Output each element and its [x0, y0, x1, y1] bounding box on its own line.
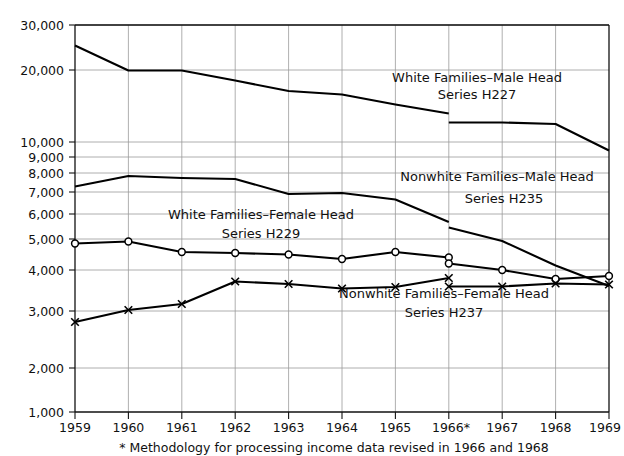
- series-h237-label-line2: Series H237: [405, 305, 484, 320]
- ytick-label-3000: 3,000: [28, 304, 64, 319]
- y-axis-tick-labels: 30,000 20,000 10,000 9,000 8,000 7,000 6…: [20, 18, 64, 420]
- ytick-label-5000: 5,000: [28, 232, 64, 247]
- series-h227-label-line2: Series H227: [438, 87, 517, 102]
- series-h229-label-line2: Series H229: [222, 226, 301, 241]
- series-h235-label-line2: Series H235: [465, 191, 544, 206]
- series-annotation-h237: Nonwhite Families–Female Head Series H23…: [339, 286, 549, 320]
- ytick-label-4000: 4,000: [28, 263, 64, 278]
- marker-h229-1967: [499, 267, 506, 274]
- xtick-label-1964: 1964: [326, 420, 358, 435]
- xtick-label-1962: 1962: [219, 420, 251, 435]
- xtick-label-1961: 1961: [166, 420, 198, 435]
- xtick-label-1960: 1960: [112, 420, 144, 435]
- chart-canvas: 30,000 20,000 10,000 9,000 8,000 7,000 6…: [0, 0, 624, 456]
- ytick-label-9000: 9,000: [28, 150, 64, 165]
- chart-footnote: * Methodology for processing income data…: [119, 440, 549, 455]
- marker-h229-1965: [392, 249, 399, 256]
- marker-h229-1964: [339, 256, 346, 263]
- y-tick-marks: [69, 25, 75, 412]
- ytick-label-1000: 1,000: [28, 405, 64, 420]
- series-annotation-h235: Nonwhite Families–Male Head Series H235: [400, 169, 594, 206]
- marker-h229-1962: [232, 250, 239, 257]
- ytick-label-8000: 8,000: [28, 166, 64, 181]
- xtick-label-1966: 1966*: [432, 420, 470, 435]
- xtick-label-1968: 1968: [540, 420, 572, 435]
- marker-h229-1969: [606, 273, 613, 280]
- ytick-label-6000: 6,000: [28, 207, 64, 222]
- ytick-label-10000: 10,000: [20, 135, 64, 150]
- series-h227-label-line1: White Families–Male Head: [392, 70, 562, 85]
- ytick-label-7000: 7,000: [28, 185, 64, 200]
- xtick-label-1965: 1965: [379, 420, 411, 435]
- marker-h229-1961: [178, 249, 185, 256]
- marker-h229-1960: [125, 238, 132, 245]
- series-annotation-h227: White Families–Male Head Series H227: [392, 70, 562, 102]
- series-h229-label-line1: White Families–Female Head: [168, 207, 354, 222]
- marker-h229-1966-post: [445, 260, 452, 267]
- marker-h229-1959: [72, 240, 79, 247]
- ytick-label-30000: 30,000: [20, 18, 64, 33]
- series-h229-segment-2: [449, 264, 609, 280]
- xtick-label-1963: 1963: [273, 420, 305, 435]
- series-h235-label-line1: Nonwhite Families–Male Head: [400, 169, 594, 184]
- x-tick-marks: [75, 412, 609, 419]
- marker-h229-1963: [285, 251, 292, 258]
- xtick-label-1959: 1959: [59, 420, 91, 435]
- series-h227-segment-2: [449, 123, 609, 151]
- income-series-line-chart: 30,000 20,000 10,000 9,000 8,000 7,000 6…: [0, 0, 624, 456]
- ytick-label-20000: 20,000: [20, 63, 64, 78]
- ytick-label-2000: 2,000: [28, 361, 64, 376]
- xtick-label-1969: 1969: [589, 420, 621, 435]
- x-axis-tick-labels: 1959 1960 1961 1962 1963 1964 1965 1966*…: [59, 420, 621, 435]
- series-annotation-h229: White Families–Female Head Series H229: [168, 207, 354, 241]
- xtick-label-1967: 1967: [486, 420, 518, 435]
- series-h237-label-line1: Nonwhite Families–Female Head: [339, 286, 549, 301]
